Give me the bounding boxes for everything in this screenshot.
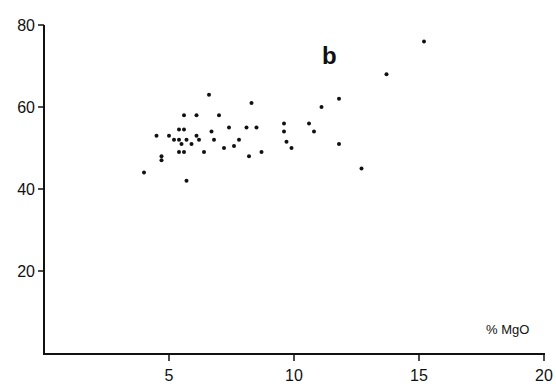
data-point [260, 150, 264, 154]
data-point [337, 142, 341, 146]
data-point [320, 105, 324, 109]
data-point [360, 167, 364, 171]
x-ticks: 5101520 [165, 354, 553, 384]
data-point [182, 128, 186, 132]
data-point [185, 179, 189, 183]
axes [43, 25, 545, 354]
data-point [255, 126, 259, 130]
data-point [185, 138, 189, 142]
data-point [177, 138, 181, 142]
data-point [227, 126, 231, 130]
data-point [217, 113, 221, 117]
data-point [177, 150, 181, 154]
data-point [285, 140, 289, 144]
data-point [172, 138, 176, 142]
x-axis-title: % MgO [486, 322, 529, 337]
data-point [245, 126, 249, 130]
data-point [202, 150, 206, 154]
data-point [282, 130, 286, 134]
panel-label: b [322, 42, 337, 69]
data-point [337, 97, 341, 101]
y-ticks: 20406080 [17, 17, 44, 280]
data-point [210, 130, 214, 134]
y-tick-label: 40 [17, 181, 35, 198]
data-point [237, 138, 241, 142]
data-point [197, 138, 201, 142]
data-point [232, 144, 236, 148]
y-tick-label: 80 [17, 17, 35, 34]
data-point [182, 113, 186, 117]
data-point [312, 130, 316, 134]
y-tick-label: 20 [17, 263, 35, 280]
data-point [195, 113, 199, 117]
data-point [247, 154, 251, 158]
data-point [212, 138, 216, 142]
y-tick-label: 60 [17, 99, 35, 116]
data-point [190, 142, 194, 146]
data-point [385, 72, 389, 76]
x-tick-label: 10 [285, 367, 303, 384]
data-points [142, 39, 426, 182]
data-point [422, 39, 426, 43]
data-point [282, 121, 286, 125]
data-point [155, 134, 159, 138]
scatter-chart: 20406080 5101520 b % MgO [0, 0, 556, 388]
data-point [307, 121, 311, 125]
data-point [182, 150, 186, 154]
data-point [207, 93, 211, 97]
data-point [167, 134, 171, 138]
data-point [250, 101, 254, 105]
data-point [180, 142, 184, 146]
x-tick-label: 15 [410, 367, 428, 384]
x-tick-label: 5 [165, 367, 174, 384]
data-point [160, 158, 164, 162]
x-tick-label: 20 [535, 367, 553, 384]
data-point [290, 146, 294, 150]
data-point [177, 128, 181, 132]
data-point [142, 171, 146, 175]
data-point [160, 154, 164, 158]
data-point [222, 146, 226, 150]
data-point [195, 134, 199, 138]
